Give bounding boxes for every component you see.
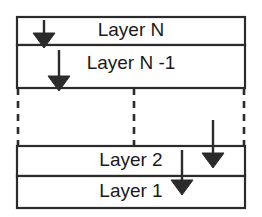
layer-label-layer-1: Layer 1 <box>99 180 162 201</box>
layer-stack-diagram: Layer NLayer N -1Layer 2Layer 1 <box>0 0 262 217</box>
layer-label-layer-2: Layer 2 <box>99 149 162 170</box>
layer-label-layer-n-1: Layer N -1 <box>87 52 176 73</box>
diagram-canvas: Layer NLayer N -1Layer 2Layer 1 <box>0 0 262 217</box>
layer-label-layer-n: Layer N <box>98 19 165 40</box>
